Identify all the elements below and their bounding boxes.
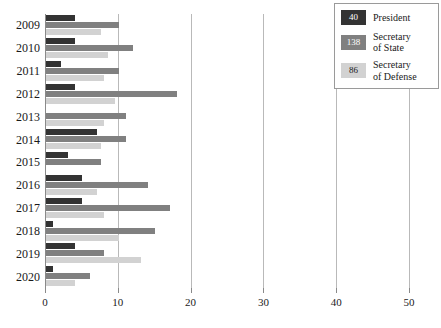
bar-group-2016 bbox=[45, 174, 409, 197]
bar-2009-secretary-of-defense bbox=[46, 29, 101, 35]
x-tick-mark-10 bbox=[118, 288, 119, 293]
bar-2012-secretary-of-state bbox=[46, 91, 177, 97]
legend-item-secretary-of-defense[interactable]: 86Secretaryof Defense bbox=[341, 59, 433, 81]
bar-group-2013 bbox=[45, 105, 409, 128]
legend-label-line1: President bbox=[373, 12, 410, 23]
legend-swatch-badge: 40 bbox=[341, 10, 366, 25]
y-axis-category-labels: 2009201020112012201320142015201620172018… bbox=[0, 14, 40, 288]
x-tick-mark-0 bbox=[45, 288, 46, 293]
legend-label-line1: Secretary bbox=[373, 59, 417, 70]
y-tick-label-2019: 2019 bbox=[16, 246, 40, 261]
x-tick-mark-50 bbox=[409, 288, 410, 293]
bar-2018-president bbox=[46, 221, 53, 227]
bar-2013-secretary-of-state bbox=[46, 113, 126, 119]
bar-2010-secretary-of-state bbox=[46, 45, 133, 51]
x-tick-label-40: 40 bbox=[331, 296, 342, 308]
bar-2011-secretary-of-defense bbox=[46, 75, 104, 81]
bar-2012-president bbox=[46, 84, 75, 90]
bar-2014-president bbox=[46, 129, 97, 135]
bar-2010-president bbox=[46, 38, 75, 44]
y-tick-label-2017: 2017 bbox=[16, 201, 40, 216]
bar-2016-secretary-of-defense bbox=[46, 189, 97, 195]
bar-2016-president bbox=[46, 175, 82, 181]
legend-swatch-badge: 86 bbox=[341, 63, 366, 78]
bar-2017-secretary-of-state bbox=[46, 205, 170, 211]
bar-2015-president bbox=[46, 152, 68, 158]
bar-2011-president bbox=[46, 61, 61, 67]
x-tick-label-0: 0 bbox=[42, 296, 48, 308]
chart-legend: 40President138Secretaryof State86Secreta… bbox=[334, 3, 439, 89]
bar-2016-secretary-of-state bbox=[46, 182, 148, 188]
bar-chart: 2009201020112012201320142015201620172018… bbox=[0, 0, 441, 328]
x-tick-mark-40 bbox=[336, 288, 337, 293]
bar-2019-secretary-of-state bbox=[46, 250, 104, 256]
legend-label-line2: of Defense bbox=[373, 71, 417, 82]
bar-2020-secretary-of-defense bbox=[46, 280, 75, 286]
bar-2018-secretary-of-defense bbox=[46, 235, 119, 241]
bar-2017-secretary-of-defense bbox=[46, 212, 104, 218]
x-tick-label-30: 30 bbox=[258, 296, 269, 308]
legend-label: President bbox=[373, 12, 410, 23]
legend-label-line1: Secretary bbox=[373, 31, 411, 42]
bar-group-2019 bbox=[45, 242, 409, 265]
bar-2011-secretary-of-state bbox=[46, 68, 119, 74]
x-tick-mark-30 bbox=[263, 288, 264, 293]
bar-2018-secretary-of-state bbox=[46, 228, 155, 234]
bar-group-2017 bbox=[45, 197, 409, 220]
bar-group-2014 bbox=[45, 128, 409, 151]
legend-label: Secretaryof Defense bbox=[373, 59, 417, 81]
legend-item-president[interactable]: 40President bbox=[341, 10, 433, 25]
x-tick-label-50: 50 bbox=[404, 296, 415, 308]
y-tick-label-2015: 2015 bbox=[16, 155, 40, 170]
bar-2014-secretary-of-state bbox=[46, 136, 126, 142]
y-tick-label-2020: 2020 bbox=[16, 269, 40, 284]
bar-2020-president bbox=[46, 266, 53, 272]
legend-label-line2: of State bbox=[373, 42, 411, 53]
legend-swatch-badge: 138 bbox=[341, 35, 366, 50]
bar-2009-president bbox=[46, 15, 75, 21]
bar-group-2018 bbox=[45, 220, 409, 243]
y-tick-label-2016: 2016 bbox=[16, 178, 40, 193]
x-tick-mark-20 bbox=[191, 288, 192, 293]
y-tick-label-2014: 2014 bbox=[16, 132, 40, 147]
x-tick-label-20: 20 bbox=[185, 296, 196, 308]
bar-2017-president bbox=[46, 198, 82, 204]
bar-2009-secretary-of-state bbox=[46, 22, 119, 28]
bar-group-2020 bbox=[45, 265, 409, 288]
bar-2012-secretary-of-defense bbox=[46, 98, 115, 104]
legend-label: Secretaryof State bbox=[373, 31, 411, 53]
y-tick-label-2013: 2013 bbox=[16, 109, 40, 124]
x-tick-label-10: 10 bbox=[112, 296, 123, 308]
bar-2014-secretary-of-defense bbox=[46, 143, 101, 149]
y-tick-label-2012: 2012 bbox=[16, 86, 40, 101]
bar-2019-secretary-of-defense bbox=[46, 257, 141, 263]
bar-2019-president bbox=[46, 243, 75, 249]
y-tick-label-2018: 2018 bbox=[16, 223, 40, 238]
bar-2015-secretary-of-state bbox=[46, 159, 101, 165]
y-tick-label-2010: 2010 bbox=[16, 41, 40, 56]
bar-2020-secretary-of-state bbox=[46, 273, 90, 279]
legend-item-secretary-of-state[interactable]: 138Secretaryof State bbox=[341, 31, 433, 53]
y-tick-label-2011: 2011 bbox=[16, 64, 40, 79]
bar-2010-secretary-of-defense bbox=[46, 52, 108, 58]
bar-2013-secretary-of-defense bbox=[46, 120, 104, 126]
y-tick-label-2009: 2009 bbox=[16, 18, 40, 33]
bar-group-2015 bbox=[45, 151, 409, 174]
